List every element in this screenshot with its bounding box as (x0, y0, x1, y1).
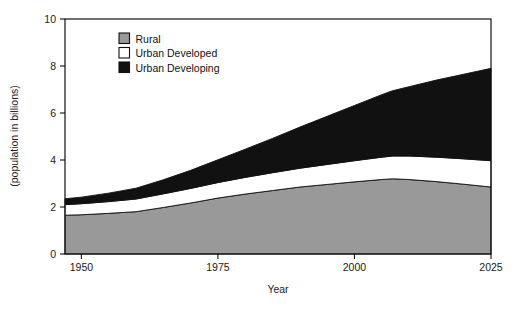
y-tick-label: 10 (44, 13, 56, 25)
y-tick-label: 6 (50, 107, 56, 119)
y-tick-label: 0 (50, 248, 56, 260)
chart-container: 0246810 1950197520002025 Year (populatio… (0, 0, 521, 311)
y-tick-label: 4 (50, 154, 56, 166)
legend-label-urban-developed: Urban Developed (136, 47, 218, 59)
x-tick-label: 2025 (479, 261, 503, 273)
legend-label-urban-developing: Urban Developing (136, 62, 220, 74)
legend-swatch-urban-developing (119, 62, 130, 73)
x-tick-label: 1975 (206, 261, 230, 273)
legend-swatch-urban-developed (119, 48, 130, 59)
legend-label-rural: Rural (136, 33, 161, 45)
legend-swatch-rural (119, 33, 130, 44)
population-stacked-area-chart: 0246810 1950197520002025 Year (populatio… (0, 0, 521, 311)
y-tick-label: 8 (50, 60, 56, 72)
x-tick-label: 2000 (343, 261, 367, 273)
y-axis-title: (population in billions) (8, 85, 20, 187)
x-tick-label: 1950 (70, 261, 94, 273)
y-tick-label: 2 (50, 201, 56, 213)
x-axis-title: Year (267, 283, 289, 295)
